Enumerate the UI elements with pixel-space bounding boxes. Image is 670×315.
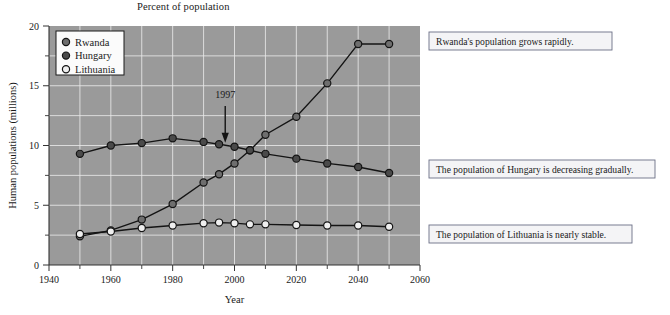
data-point bbox=[231, 220, 238, 227]
chart-legend: RwandaHungaryLithuania bbox=[56, 31, 124, 75]
legend-label-rwanda: Rwanda bbox=[75, 37, 110, 48]
data-point bbox=[138, 216, 145, 223]
svg-text:2000: 2000 bbox=[225, 274, 245, 285]
callout-text: Rwanda's population grows rapidly. bbox=[436, 36, 574, 47]
callout-3: The population of Lithuania is nearly st… bbox=[429, 225, 632, 243]
data-point bbox=[138, 224, 145, 231]
data-point bbox=[107, 228, 114, 235]
data-point bbox=[262, 221, 269, 228]
svg-text:2040: 2040 bbox=[348, 274, 368, 285]
callout-text: The population of Lithuania is nearly st… bbox=[436, 229, 606, 240]
legend-label-hungary: Hungary bbox=[75, 50, 112, 61]
data-point bbox=[262, 131, 269, 138]
callout-boxes: Rwanda's population grows rapidly.The po… bbox=[429, 32, 655, 243]
data-point bbox=[324, 80, 331, 87]
svg-text:0: 0 bbox=[34, 260, 39, 271]
svg-text:20: 20 bbox=[29, 21, 39, 32]
x-axis-title: Year bbox=[225, 294, 245, 305]
legend-label-lithuania: Lithuania bbox=[75, 64, 116, 75]
data-point bbox=[169, 200, 176, 207]
population-line-chart: 194019601980200020202040206005101520Year… bbox=[0, 0, 670, 315]
data-point bbox=[385, 223, 392, 230]
data-point bbox=[385, 169, 392, 176]
data-point bbox=[385, 40, 392, 47]
callout-1: Rwanda's population grows rapidly. bbox=[429, 32, 612, 50]
data-point bbox=[169, 135, 176, 142]
data-point bbox=[76, 230, 83, 237]
svg-text:1960: 1960 bbox=[101, 274, 121, 285]
data-point bbox=[76, 150, 83, 157]
callout-2: The population of Hungary is decreasing … bbox=[429, 160, 655, 178]
data-point bbox=[138, 140, 145, 147]
data-point bbox=[107, 142, 114, 149]
data-point bbox=[262, 150, 269, 157]
data-point bbox=[200, 179, 207, 186]
data-point bbox=[200, 138, 207, 145]
data-point bbox=[355, 163, 362, 170]
legend-marker-rwanda bbox=[62, 38, 69, 45]
svg-text:10: 10 bbox=[29, 140, 39, 151]
data-point bbox=[246, 147, 253, 154]
svg-text:5: 5 bbox=[34, 200, 39, 211]
svg-text:1940: 1940 bbox=[39, 274, 59, 285]
data-point bbox=[355, 222, 362, 229]
data-point bbox=[293, 221, 300, 228]
legend-marker-hungary bbox=[62, 52, 69, 59]
data-point bbox=[324, 222, 331, 229]
legend-marker-lithuania bbox=[62, 66, 69, 73]
data-point bbox=[324, 160, 331, 167]
data-point bbox=[231, 160, 238, 167]
annotation-label: 1997 bbox=[215, 89, 235, 100]
svg-text:15: 15 bbox=[29, 80, 39, 91]
top-caption: Percent of population bbox=[137, 1, 230, 12]
data-point bbox=[215, 171, 222, 178]
data-point bbox=[231, 143, 238, 150]
figure-container: Percent of population 194019601980200020… bbox=[0, 0, 670, 315]
data-point bbox=[246, 221, 253, 228]
data-point bbox=[215, 141, 222, 148]
data-point bbox=[200, 220, 207, 227]
svg-text:2020: 2020 bbox=[286, 274, 306, 285]
callout-text: The population of Hungary is decreasing … bbox=[436, 164, 633, 175]
data-point bbox=[293, 113, 300, 120]
data-point bbox=[169, 222, 176, 229]
data-point bbox=[215, 219, 222, 226]
y-axis-title: Human populations (millions) bbox=[7, 82, 19, 209]
data-point bbox=[293, 155, 300, 162]
svg-text:2060: 2060 bbox=[410, 274, 430, 285]
svg-text:1980: 1980 bbox=[163, 274, 183, 285]
data-point bbox=[355, 40, 362, 47]
